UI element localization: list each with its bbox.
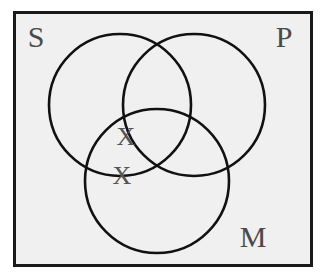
set-label-m: M (240, 220, 267, 253)
venn-diagram-figure: S P M X X (0, 0, 328, 278)
x-mark-upper: X (117, 122, 136, 151)
set-label-p: P (276, 20, 293, 53)
venn-diagram-canvas: S P M X X (0, 0, 328, 278)
x-mark-lower: X (113, 161, 132, 190)
set-label-s: S (28, 20, 45, 53)
